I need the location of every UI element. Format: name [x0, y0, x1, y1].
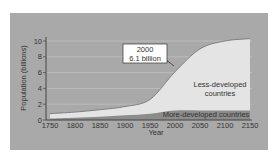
- annotation-value: 6.1 billion: [129, 54, 161, 63]
- x-tick-label: 2050: [192, 121, 209, 130]
- y-tick-label: 2: [38, 100, 42, 109]
- x-tick-label: 2150: [242, 121, 259, 130]
- x-axis-title: Year: [148, 128, 164, 137]
- x-tick-label: 1850: [92, 121, 109, 130]
- y-axis-ticks: 0246810: [34, 37, 46, 125]
- x-tick-label: 1750: [42, 121, 59, 130]
- x-tick-label: 1800: [67, 121, 84, 130]
- y-tick-label: 8: [38, 52, 42, 61]
- y-tick-label: 6: [38, 68, 42, 77]
- x-tick-label: 1900: [117, 121, 134, 130]
- less-developed-label-line1: Less-developed: [194, 80, 247, 89]
- y-tick-label: 10: [34, 37, 42, 46]
- x-tick-label: 2100: [217, 121, 234, 130]
- population-area-chart: 0246810 17501800185019001950200020502100…: [0, 0, 279, 163]
- x-tick-label: 2000: [167, 121, 184, 130]
- annotation-year: 2000: [137, 45, 154, 54]
- y-tick-label: 4: [38, 84, 42, 93]
- less-developed-label-line2: countries: [205, 89, 236, 98]
- more-developed-label: More-developed countries: [163, 110, 250, 119]
- y-axis-title: Population (billions): [19, 45, 28, 111]
